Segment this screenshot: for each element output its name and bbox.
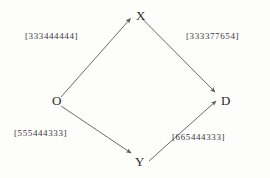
node-d: D — [221, 94, 230, 107]
node-y: Y — [135, 155, 144, 168]
node-x: X — [136, 9, 145, 22]
edge-y-to-d — [149, 101, 216, 161]
edges-layer — [0, 0, 270, 178]
node-o: O — [52, 94, 61, 107]
edge-label-o-to-y: [555444333] — [14, 129, 67, 138]
edge-label-o-to-x: [333444444] — [25, 32, 78, 41]
diagram-canvas: O X Y D [333444444] [333377654] [5554443… — [0, 0, 270, 178]
edge-label-y-to-d: [665444333] — [172, 133, 225, 142]
edge-o-to-y — [61, 106, 131, 153]
edge-label-x-to-d: [333377654] — [186, 32, 239, 41]
